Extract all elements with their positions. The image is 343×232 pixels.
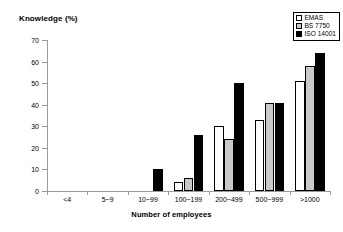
bar bbox=[295, 81, 305, 191]
bar bbox=[214, 126, 224, 191]
x-axis-line bbox=[47, 191, 331, 192]
bar bbox=[234, 83, 244, 191]
chart-figure: Knowledge (%) EMAS BS 7750 ISO 14001 010… bbox=[0, 0, 343, 232]
legend-item-iso14001: ISO 14001 bbox=[296, 30, 336, 38]
bar-groups bbox=[47, 40, 330, 191]
legend-swatch-iso14001 bbox=[296, 31, 302, 37]
bar bbox=[265, 103, 275, 191]
y-axis-tick-label: 20 bbox=[13, 144, 39, 151]
legend-item-emas: EMAS bbox=[296, 14, 336, 22]
x-axis-tick-label: 10~99 bbox=[138, 196, 158, 203]
bar-group bbox=[128, 40, 168, 191]
x-axis-tick-label: 5~9 bbox=[102, 196, 114, 203]
bar bbox=[174, 182, 184, 191]
x-axis-tick bbox=[209, 191, 210, 195]
bar bbox=[275, 103, 285, 191]
x-axis-tick bbox=[168, 191, 169, 195]
legend-swatch-bs7750 bbox=[296, 23, 302, 29]
x-axis-tick bbox=[47, 191, 48, 195]
x-axis-tick bbox=[290, 191, 291, 195]
bar bbox=[315, 53, 325, 191]
legend-swatch-emas bbox=[296, 15, 302, 21]
chart-legend: EMAS BS 7750 ISO 14001 bbox=[293, 12, 340, 41]
bar-group bbox=[290, 40, 330, 191]
chart-title: Knowledge (%) bbox=[19, 14, 78, 23]
bar bbox=[153, 169, 163, 191]
x-axis-tick bbox=[330, 191, 331, 195]
x-axis-title: Number of employees bbox=[0, 210, 343, 219]
bar bbox=[255, 120, 265, 191]
x-axis-tick-label: >1000 bbox=[300, 196, 320, 203]
bar bbox=[224, 139, 234, 191]
bar-group bbox=[47, 40, 87, 191]
bar bbox=[184, 178, 194, 191]
bar-group bbox=[168, 40, 208, 191]
y-axis-tick-label: 60 bbox=[13, 58, 39, 65]
bar-group bbox=[87, 40, 127, 191]
legend-label-iso14001: ISO 14001 bbox=[304, 30, 336, 37]
plot-area bbox=[47, 40, 330, 191]
bar-group bbox=[249, 40, 289, 191]
x-axis-tick bbox=[128, 191, 129, 195]
y-axis-tick-label: 30 bbox=[13, 123, 39, 130]
bar-group bbox=[209, 40, 249, 191]
y-axis-tick-label: 50 bbox=[13, 80, 39, 87]
bar bbox=[194, 135, 204, 191]
legend-label-emas: EMAS bbox=[304, 14, 323, 21]
x-axis-tick bbox=[249, 191, 250, 195]
x-axis-tick-label: 100~199 bbox=[175, 196, 202, 203]
legend-label-bs7750: BS 7750 bbox=[304, 22, 329, 29]
legend-item-bs7750: BS 7750 bbox=[296, 22, 336, 30]
y-axis-tick-label: 10 bbox=[13, 166, 39, 173]
x-axis-tick-label: 200~499 bbox=[215, 196, 242, 203]
x-axis-tick-label: <4 bbox=[63, 196, 71, 203]
x-axis-tick-label: 500~999 bbox=[256, 196, 283, 203]
y-axis-tick-label: 0 bbox=[13, 188, 39, 195]
x-axis-tick bbox=[87, 191, 88, 195]
y-axis-tick-label: 70 bbox=[13, 37, 39, 44]
bar bbox=[305, 66, 315, 191]
y-axis-tick-label: 40 bbox=[13, 101, 39, 108]
